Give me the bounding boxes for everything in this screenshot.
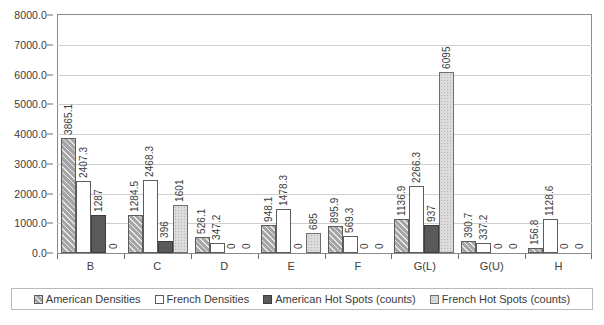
- bar-value-label: 1284.5: [130, 181, 140, 212]
- bar-value-label: 1136.9: [396, 186, 406, 216]
- y-axis-tick-mark: [47, 193, 53, 194]
- x-axis-tick: C: [124, 254, 191, 276]
- legend-item: American Densities: [34, 293, 141, 305]
- bar: 1128.6: [543, 219, 558, 253]
- bar: 1136.9: [394, 219, 409, 253]
- bar: 895.9: [328, 226, 343, 253]
- bar-value-label: 0: [108, 243, 118, 249]
- x-axis-tick-label: H: [525, 260, 592, 272]
- x-axis-tick-mark: [591, 254, 592, 259]
- bar: 2266.3: [409, 186, 424, 253]
- y-axis-tick-mark: [47, 163, 53, 164]
- y-axis-tick-mark: [47, 253, 53, 254]
- bar-value-label: 569.3: [345, 208, 355, 234]
- bar-value-label: 526.1: [197, 209, 207, 235]
- bar: 526.1: [195, 237, 210, 253]
- x-axis-tick-label: C: [124, 260, 191, 272]
- bar-chart: 0.01000.02000.03000.04000.05000.06000.07…: [0, 0, 604, 325]
- legend-item: American Hot Spots (counts): [263, 293, 416, 305]
- bar: 396: [158, 241, 173, 253]
- legend-label: American Densities: [46, 293, 141, 305]
- chart-legend: American DensitiesFrench DensitiesAmeric…: [11, 288, 593, 310]
- x-axis: BCDEFG(L)G(U)H: [57, 254, 592, 276]
- bar-groups: 3865.12407.3128701284.52468.33961601526.…: [58, 15, 591, 253]
- x-axis-tick-mark: [391, 254, 392, 259]
- bar-value-label: 0: [293, 243, 303, 249]
- y-axis-tick-mark: [47, 223, 53, 224]
- bar: 1287: [91, 215, 106, 253]
- bar-value-label: 0: [375, 243, 385, 249]
- x-axis-tick-label: B: [57, 260, 124, 272]
- y-axis-tick-mark: [47, 15, 53, 16]
- x-axis-tick-mark: [57, 254, 58, 259]
- x-axis-tick-mark: [325, 254, 326, 259]
- y-axis: 0.01000.02000.03000.04000.05000.06000.07…: [0, 14, 53, 254]
- bar-value-label: 156.8: [530, 220, 540, 246]
- legend-item: French Hot Spots (counts): [430, 293, 570, 305]
- bar: 569.3: [343, 236, 358, 253]
- bar: 2468.3: [143, 180, 158, 253]
- bar: 337.2: [476, 243, 491, 253]
- legend-label: French Hot Spots (counts): [442, 293, 570, 305]
- x-axis-tick-mark: [525, 254, 526, 259]
- bar-group-h: 156.81128.600: [524, 15, 591, 253]
- y-axis-tick-label: 8000.0: [14, 9, 47, 21]
- bar-group-f: 895.9569.300: [325, 15, 392, 253]
- bar-value-label: 0: [227, 243, 237, 249]
- bar-group-d: 526.1347.200: [191, 15, 258, 253]
- bar: 1284.5: [128, 215, 143, 253]
- bar-value-label: 2407.3: [78, 147, 88, 178]
- y-axis-tick-label: 4000.0: [14, 128, 47, 140]
- plot-area: 3865.12407.3128701284.52468.33961601526.…: [57, 14, 592, 254]
- x-axis-tick-mark: [124, 254, 125, 259]
- bar-value-label: 0: [360, 243, 370, 249]
- bar: 3865.1: [61, 138, 76, 253]
- legend-swatch-icon: [430, 295, 439, 304]
- bar-group-e: 948.11478.30685: [258, 15, 325, 253]
- bar-value-label: 0: [575, 243, 585, 249]
- bar-value-label: 1287: [93, 189, 103, 212]
- legend-swatch-icon: [155, 295, 164, 304]
- bar: 937: [424, 225, 439, 253]
- x-axis-tick: G(L): [391, 254, 458, 276]
- x-axis-tick: F: [325, 254, 392, 276]
- y-axis-tick-label: 1000.0: [14, 217, 47, 229]
- x-axis-tick-mark: [458, 254, 459, 259]
- bar-value-label: 937: [426, 205, 436, 222]
- x-axis-tick: E: [258, 254, 325, 276]
- y-axis-tick-label: 0.0: [32, 247, 47, 259]
- x-axis-tick-mark: [258, 254, 259, 259]
- bar-value-label: 685: [308, 213, 318, 230]
- bar: 156.8: [528, 248, 543, 253]
- bar-value-label: 948.1: [263, 196, 273, 222]
- x-axis-tick-label: F: [325, 260, 392, 272]
- x-axis-tick: H: [525, 254, 592, 276]
- legend-label: French Densities: [167, 293, 250, 305]
- bar-value-label: 2266.3: [411, 151, 421, 182]
- bar-group-gu: 390.7337.200: [458, 15, 525, 253]
- legend-swatch-icon: [34, 295, 43, 304]
- bar-value-label: 390.7: [463, 213, 473, 239]
- x-axis-tick-label: E: [258, 260, 325, 272]
- bar-group-b: 3865.12407.312870: [58, 15, 125, 253]
- y-axis-tick-label: 7000.0: [14, 39, 47, 51]
- legend-item: French Densities: [155, 293, 250, 305]
- x-axis-tick: D: [191, 254, 258, 276]
- bar-value-label: 0: [493, 243, 503, 249]
- bar-value-label: 337.2: [478, 214, 488, 240]
- bar-value-label: 0: [242, 243, 252, 249]
- bar-value-label: 0: [508, 243, 518, 249]
- y-axis-tick-label: 6000.0: [14, 69, 47, 81]
- y-axis-tick-mark: [47, 74, 53, 75]
- legend-label: American Hot Spots (counts): [275, 293, 416, 305]
- bar-value-label: 3865.1: [63, 104, 73, 135]
- bar-value-label: 2468.3: [145, 145, 155, 176]
- bar: 2407.3: [76, 181, 91, 253]
- bar-value-label: 895.9: [330, 198, 340, 224]
- y-axis-tick-mark: [47, 44, 53, 45]
- bar-value-label: 1601: [175, 180, 185, 203]
- x-axis-tick: G(U): [458, 254, 525, 276]
- bar: 6095: [439, 72, 454, 253]
- bar: 1478.3: [276, 209, 291, 253]
- y-axis-tick-mark: [47, 134, 53, 135]
